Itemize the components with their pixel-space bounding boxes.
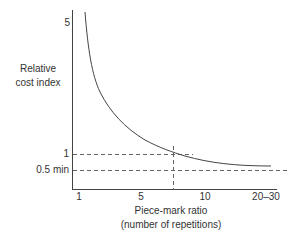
y-axis-label-line2: cost index bbox=[15, 77, 60, 88]
x-tick-10: 10 bbox=[199, 191, 210, 202]
y-tick-1: 1 bbox=[63, 148, 69, 159]
x-tick-5: 5 bbox=[138, 191, 144, 202]
cost-curve bbox=[85, 12, 271, 166]
chart-canvas bbox=[0, 0, 297, 239]
x-axis-label: Piece-mark ratio bbox=[135, 205, 208, 216]
y-axis-label-line1: Relative bbox=[20, 63, 56, 74]
y-tick-min: 0.5 min bbox=[36, 164, 69, 175]
x-tick-20-30: 20–30 bbox=[252, 191, 280, 202]
x-axis-sublabel: (number of repetitions) bbox=[121, 219, 222, 230]
x-tick-1: 1 bbox=[76, 191, 82, 202]
y-tick-5: 5 bbox=[64, 17, 70, 28]
